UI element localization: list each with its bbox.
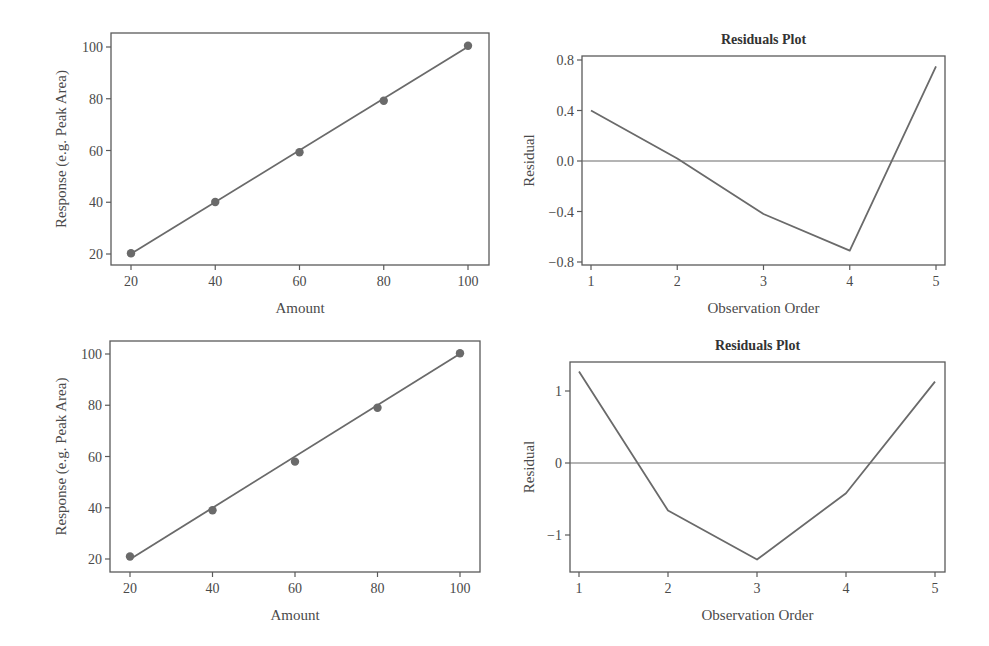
y-tick-label: −0.4 [549, 205, 574, 220]
data-point [456, 349, 464, 357]
y-tick-label: 0.0 [557, 154, 575, 169]
chart-title: Residuals Plot [715, 338, 801, 353]
chart-title: Residuals Plot [721, 32, 807, 47]
data-point [380, 97, 388, 105]
y-tick-label: 80 [88, 398, 102, 413]
x-tick-label: 4 [843, 581, 850, 596]
x-tick-label: 3 [754, 581, 761, 596]
y-tick-label: −0.8 [549, 255, 574, 270]
data-point [291, 457, 299, 465]
panel-top-left: 2040608010020406080100AmountResponse (e.… [53, 33, 489, 316]
x-tick-label: 60 [288, 581, 302, 596]
residual-line [579, 372, 935, 560]
y-tick-label: 0 [555, 456, 562, 471]
y-tick-label: 1 [555, 384, 562, 399]
x-axis-label: Observation Order [707, 300, 819, 316]
residual-line [591, 66, 936, 250]
y-tick-label: 60 [88, 450, 102, 465]
x-axis-label: Observation Order [701, 607, 813, 623]
y-tick-label: 40 [89, 195, 103, 210]
data-point [464, 42, 472, 50]
y-tick-label: 100 [81, 347, 102, 362]
x-tick-label: 1 [576, 581, 583, 596]
panel-bottom-left: 2040608010020406080100AmountResponse (e.… [53, 341, 480, 623]
y-tick-label: 100 [82, 40, 103, 55]
plot-frame [570, 362, 945, 572]
x-tick-label: 5 [932, 581, 939, 596]
panel-top-right: Residuals Plot12345−0.8−0.40.00.40.8Obse… [521, 32, 945, 316]
x-tick-label: 60 [293, 274, 307, 289]
x-tick-label: 3 [760, 274, 767, 289]
x-tick-label: 5 [933, 274, 940, 289]
y-tick-label: 80 [89, 92, 103, 107]
y-axis-label: Response (e.g. Peak Area) [53, 70, 70, 228]
data-point [211, 198, 219, 206]
y-tick-label: 20 [88, 552, 102, 567]
x-tick-label: 80 [371, 581, 385, 596]
y-axis-label: Residual [521, 441, 537, 494]
figure-canvas: 2040608010020406080100AmountResponse (e.… [0, 0, 989, 646]
x-tick-label: 2 [674, 274, 681, 289]
data-point [295, 148, 303, 156]
y-axis-label: Residual [521, 134, 537, 187]
x-tick-label: 80 [377, 274, 391, 289]
y-tick-label: 60 [89, 144, 103, 159]
x-tick-label: 4 [846, 274, 853, 289]
y-tick-label: 20 [89, 247, 103, 262]
x-tick-label: 20 [124, 274, 138, 289]
y-tick-label: 40 [88, 501, 102, 516]
x-tick-label: 20 [123, 581, 137, 596]
x-axis-label: Amount [270, 607, 320, 623]
y-tick-label: −1 [547, 528, 562, 543]
data-point [127, 249, 135, 257]
fit-line [130, 354, 460, 560]
x-tick-label: 100 [458, 274, 479, 289]
y-tick-label: 0.8 [557, 53, 575, 68]
panel-bottom-right: Residuals Plot12345−101Observation Order… [521, 338, 945, 623]
x-axis-label: Amount [275, 300, 325, 316]
y-tick-label: 0.4 [557, 104, 575, 119]
data-point [208, 506, 216, 514]
x-tick-label: 40 [208, 274, 222, 289]
data-point [373, 404, 381, 412]
x-tick-label: 100 [450, 581, 471, 596]
y-axis-label: Response (e.g. Peak Area) [53, 378, 70, 536]
data-point [126, 552, 134, 560]
x-tick-label: 2 [665, 581, 672, 596]
x-tick-label: 40 [206, 581, 220, 596]
x-tick-label: 1 [588, 274, 595, 289]
